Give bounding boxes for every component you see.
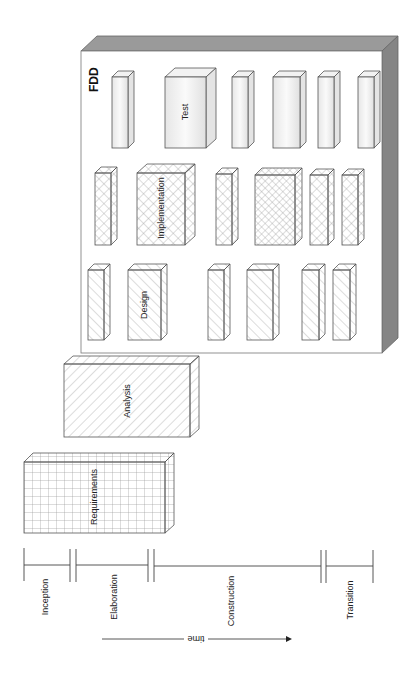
design-box-4 [247,264,279,340]
requirements-box: Requirements [24,453,174,533]
impl-box-6 [342,169,364,245]
fdd-top-face [81,36,398,51]
time-arrow: time [102,634,292,644]
test-box-6 [358,71,380,148]
design-label: Design [139,291,149,319]
test-box-4 [273,71,306,148]
phase-elaboration: Elaboration [109,574,119,620]
phase-inception: Inception [40,579,50,616]
test-box-3 [232,71,254,148]
impl-box-4 [255,168,302,245]
time-label: time [187,634,204,644]
test-box-5 [318,71,340,148]
impl-box-3 [216,168,238,245]
fdd-process-diagram: FDD Test [0,0,400,674]
impl-box-1 [95,167,117,245]
phase-construction: Construction [226,576,236,627]
analysis-label: Analysis [122,384,132,418]
impl-box-main: Implementation [137,164,195,245]
phase-timeline [24,548,373,583]
fdd-title: FDD [87,67,101,92]
test-box-1 [112,71,134,148]
design-box-1 [88,264,110,340]
requirements-label: Requirements [89,468,99,525]
design-box-main: Design [128,264,167,340]
phase-transition: Transition [345,580,355,619]
fdd-side-face [382,36,398,353]
implementation-label: Implementation [156,177,166,239]
analysis-box: Analysis [64,356,199,437]
test-box-main: Test [165,68,216,148]
test-label: Test [180,103,190,120]
design-box-5 [302,264,325,340]
arrow-head-icon [286,636,292,642]
design-box-3 [208,264,230,340]
design-box-6 [333,264,356,340]
design-row: Design [88,264,356,340]
impl-box-5 [310,169,334,245]
